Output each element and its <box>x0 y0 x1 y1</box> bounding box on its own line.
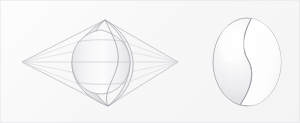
illustration-canvas <box>0 0 300 123</box>
sphere-highlight <box>219 25 245 63</box>
shaded-sphere-figure <box>0 0 300 123</box>
